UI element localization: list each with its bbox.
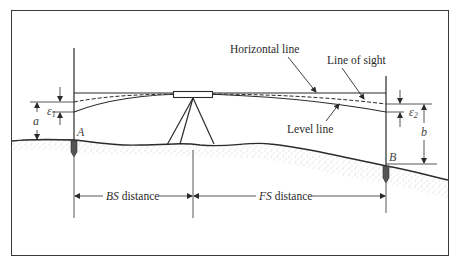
- b-dimension-label: b: [421, 125, 427, 139]
- point-b-label: B: [389, 150, 397, 164]
- epsilon-2-label: ε2: [409, 105, 418, 120]
- leveling-diagram: ε1 a A ε2 b B Horizontal line Line of si…: [0, 0, 457, 264]
- bs-distance-label: BS distance: [106, 190, 159, 202]
- horizontal-line-label: Horizontal line: [230, 43, 299, 55]
- epsilon-1-label: ε1: [47, 104, 56, 119]
- level-line: [74, 94, 386, 112]
- level-line-label: Level line: [287, 123, 333, 135]
- line-of-sight-label: Line of sight: [327, 54, 387, 67]
- point-a-label: A: [76, 125, 85, 139]
- a-dimension-label: a: [33, 114, 39, 128]
- level-instrument: [167, 92, 214, 146]
- ground-surface: [12, 139, 448, 198]
- fs-distance-label: FS distance: [258, 190, 312, 202]
- rod-b: [383, 76, 389, 213]
